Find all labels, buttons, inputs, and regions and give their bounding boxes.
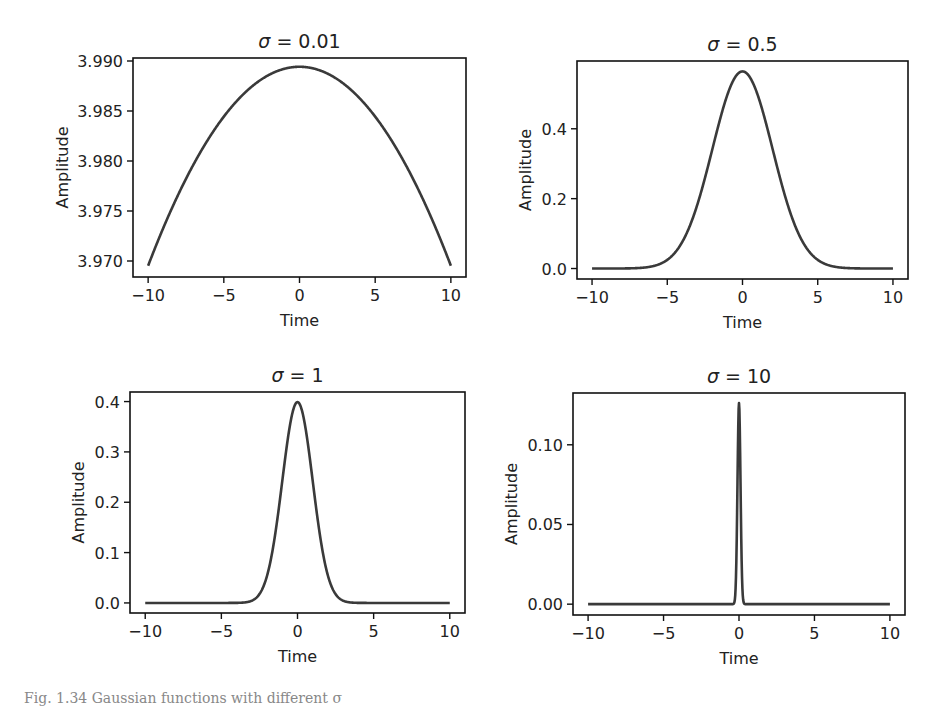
x-tick-label: 5 bbox=[813, 288, 823, 307]
subplot-2: −10−505100.00.20.4TimeAmplitudeσ = 0.5 bbox=[516, 33, 909, 332]
axes-frame bbox=[130, 392, 465, 613]
x-axis-label: Time bbox=[277, 647, 317, 666]
y-tick-label: 0.4 bbox=[542, 120, 567, 139]
x-tick-label: 0 bbox=[734, 624, 744, 643]
x-tick-label: −5 bbox=[210, 622, 234, 641]
y-tick-label: 0.05 bbox=[527, 515, 563, 534]
y-tick-label: 3.980 bbox=[77, 152, 123, 171]
subplot-4: −10−505100.000.050.10TimeAmplitudeσ = 10 bbox=[502, 365, 905, 668]
y-axis-label: Amplitude bbox=[516, 129, 535, 211]
y-axis-label: Amplitude bbox=[69, 462, 88, 544]
x-axis-label: Time bbox=[718, 649, 758, 668]
y-tick-label: 0.0 bbox=[542, 260, 567, 279]
gaussian-curve bbox=[145, 402, 450, 603]
gaussian-curve bbox=[588, 403, 890, 604]
x-tick-label: 10 bbox=[880, 624, 900, 643]
x-tick-label: −5 bbox=[212, 286, 236, 305]
x-axis-label: Time bbox=[722, 313, 762, 332]
y-tick-label: 0.00 bbox=[527, 595, 563, 614]
y-tick-label: 3.975 bbox=[77, 202, 123, 221]
y-tick-label: 0.4 bbox=[95, 393, 120, 412]
y-tick-label: 0.1 bbox=[95, 544, 120, 563]
y-tick-label: 3.970 bbox=[77, 252, 123, 271]
x-tick-label: 10 bbox=[883, 288, 903, 307]
subplot-1: −10−505103.9703.9753.9803.9853.990TimeAm… bbox=[53, 30, 467, 330]
x-tick-label: 0 bbox=[292, 622, 302, 641]
x-tick-label: 5 bbox=[369, 622, 379, 641]
x-tick-label: −10 bbox=[128, 622, 162, 641]
axes-frame bbox=[133, 58, 466, 277]
x-tick-label: −5 bbox=[655, 288, 679, 307]
y-tick-label: 0.10 bbox=[527, 436, 563, 455]
y-tick-label: 0.2 bbox=[542, 190, 567, 209]
subplot-title: σ = 0.5 bbox=[707, 33, 777, 55]
y-tick-label: 0.2 bbox=[95, 493, 120, 512]
y-tick-label: 3.990 bbox=[77, 52, 123, 71]
x-tick-label: 10 bbox=[440, 622, 460, 641]
gaussian-curve bbox=[592, 71, 893, 268]
x-tick-label: 0 bbox=[294, 286, 304, 305]
y-axis-label: Amplitude bbox=[53, 127, 72, 209]
y-tick-label: 0.3 bbox=[95, 443, 120, 462]
y-axis-label: Amplitude bbox=[502, 463, 521, 545]
y-tick-label: 3.985 bbox=[77, 102, 123, 121]
x-tick-label: 0 bbox=[737, 288, 747, 307]
x-tick-label: 10 bbox=[441, 286, 461, 305]
x-tick-label: −5 bbox=[652, 624, 676, 643]
figure-caption: Fig. 1.34 Gaussian functions with differ… bbox=[24, 690, 342, 706]
x-tick-label: −10 bbox=[571, 624, 605, 643]
x-tick-label: −10 bbox=[131, 286, 165, 305]
subplot-title: σ = 0.01 bbox=[258, 30, 340, 52]
subplot-title: σ = 10 bbox=[707, 365, 771, 387]
subplot-title: σ = 1 bbox=[271, 364, 323, 386]
axes-frame bbox=[577, 61, 908, 279]
x-tick-label: 5 bbox=[370, 286, 380, 305]
x-tick-label: 5 bbox=[809, 624, 819, 643]
x-tick-label: −10 bbox=[575, 288, 609, 307]
subplot-3: −10−505100.00.10.20.30.4TimeAmplitudeσ =… bbox=[69, 364, 466, 666]
x-axis-label: Time bbox=[279, 311, 319, 330]
gaussian-curve bbox=[148, 67, 451, 266]
y-tick-label: 0.0 bbox=[95, 594, 120, 613]
